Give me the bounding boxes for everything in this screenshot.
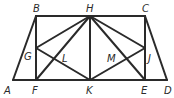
segment-CD <box>145 16 167 80</box>
label-C: C <box>142 3 149 14</box>
label-D: D <box>164 85 172 96</box>
label-J: J <box>146 53 151 64</box>
diagram-lines <box>13 16 167 80</box>
segment-HE <box>90 16 145 80</box>
label-A: A <box>3 85 11 96</box>
label-L: L <box>62 53 68 64</box>
label-E: E <box>141 85 148 96</box>
segment-AB <box>13 16 36 80</box>
segment-HF <box>36 16 90 80</box>
label-H: H <box>86 3 94 14</box>
label-M: M <box>107 53 116 64</box>
label-G: G <box>24 51 32 62</box>
label-K: K <box>86 85 94 96</box>
segment-HG <box>36 16 90 48</box>
segment-KJ <box>90 48 145 80</box>
segment-HJ <box>90 16 145 48</box>
geometry-diagram: A F K E D B H C G J L M <box>0 0 174 98</box>
label-F: F <box>32 85 38 96</box>
label-B: B <box>33 3 40 14</box>
